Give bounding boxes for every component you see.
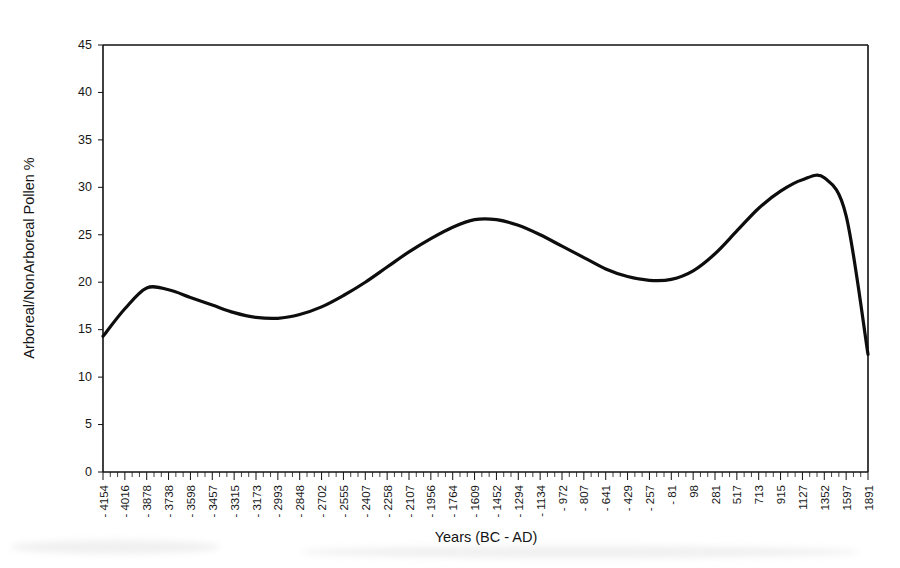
x-tick-label: - 2848 (294, 485, 306, 518)
x-tick-label: - 1294 (513, 484, 525, 517)
x-tick-label: - 2555 (338, 485, 350, 518)
x-tick-label: 1127 (797, 485, 809, 510)
scan-artifact (300, 546, 860, 558)
x-tick-label: - 2702 (316, 485, 328, 518)
x-tick-label: - 2107 (404, 485, 416, 518)
y-tick-label: 30 (78, 180, 92, 194)
y-tick-label: 25 (78, 228, 92, 242)
x-tick-label: - 1609 (469, 485, 481, 518)
x-tick-label: - 2258 (382, 485, 394, 518)
y-tick-label: 40 (78, 85, 92, 99)
x-tick-label: - 641 (600, 485, 612, 511)
x-tick-label: - 2407 (360, 485, 372, 518)
y-tick-label: 0 (85, 465, 92, 479)
x-tick-label: - 1956 (425, 485, 437, 518)
x-tick-label: - 3457 (207, 485, 219, 518)
x-tick-label: - 4016 (119, 485, 131, 518)
y-tick-label: 15 (78, 322, 92, 336)
x-tick-label: 1597 (841, 485, 853, 511)
chart-background (0, 0, 900, 568)
y-axis-title: Arboreal/NonArboreal Pollen % (21, 157, 37, 359)
x-tick-label: - 2993 (272, 485, 284, 518)
x-tick-label: 98 (688, 485, 700, 498)
x-tick-label: 1352 (819, 485, 831, 511)
x-tick-label: - 1452 (491, 485, 503, 518)
x-tick-label: - 257 (644, 485, 656, 511)
x-tick-label: - 3878 (141, 485, 153, 518)
y-tick-label: 35 (78, 133, 92, 147)
x-tick-label: - 1764 (447, 484, 459, 517)
x-tick-label: - 3315 (229, 485, 241, 518)
x-tick-label: 1891 (863, 485, 875, 511)
x-tick-label: - 3173 (251, 485, 263, 518)
y-tick-label: 20 (78, 275, 92, 289)
x-tick-label: - 972 (557, 485, 569, 511)
chart-canvas: 051015202530354045 - 4154- 4016- 3878- 3… (0, 0, 900, 568)
x-tick-label: - 3598 (185, 485, 197, 518)
x-tick-label: 517 (731, 485, 743, 504)
x-tick-label: - 429 (622, 485, 634, 511)
y-tick-label: 5 (85, 417, 92, 431)
x-tick-label: - 4154 (98, 484, 110, 517)
x-tick-label: - 1134 (535, 484, 547, 516)
x-tick-label: - 3738 (163, 485, 175, 518)
y-tick-label: 45 (78, 38, 92, 52)
x-tick-label: 281 (710, 485, 722, 504)
x-tick-label: - 807 (578, 485, 590, 511)
x-tick-label: - 81 (666, 485, 678, 505)
x-tick-label: 713 (753, 485, 765, 504)
y-tick-label: 10 (78, 370, 92, 384)
scan-artifact (10, 540, 220, 554)
pollen-line-chart-figure: 051015202530354045 - 4154- 4016- 3878- 3… (0, 0, 900, 568)
x-axis-title: Years (BC - AD) (435, 529, 538, 545)
x-tick-label: 915 (775, 485, 787, 504)
